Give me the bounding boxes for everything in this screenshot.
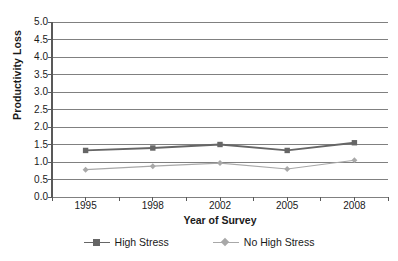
y-axis-tick-label: 5.0 — [22, 17, 48, 27]
data-point-square — [217, 142, 222, 147]
chart-legend: High StressNo High Stress — [0, 234, 398, 250]
legend-square-marker-icon — [84, 237, 110, 248]
y-axis-tick-label: 0.0 — [22, 192, 48, 202]
y-axis-tick-label: 2.5 — [22, 105, 48, 115]
y-axis-tick-label: 0.5 — [22, 175, 48, 185]
x-axis-tick-label: 2005 — [262, 200, 312, 212]
data-point-diamond — [217, 160, 223, 166]
y-axis-tick-label: 1.0 — [22, 157, 48, 167]
y-axis-tick-label: 4.5 — [22, 35, 48, 45]
x-axis-tick-label: 2002 — [195, 200, 245, 212]
x-axis-title: Year of Survey — [52, 214, 388, 227]
axis-lines — [48, 22, 52, 197]
plot-svg — [52, 22, 388, 197]
legend-item-2[interactable]: No High Stress — [213, 236, 315, 248]
legend-marker — [221, 238, 229, 246]
legend-diamond-marker-icon — [213, 237, 239, 248]
data-point-square — [352, 140, 357, 145]
gridlines — [52, 22, 388, 197]
y-axis-tick-label: 3.0 — [22, 87, 48, 97]
y-axis-tick-label: 2.0 — [22, 122, 48, 132]
data-point-diamond — [150, 163, 156, 169]
x-axis-tick-label: 1998 — [128, 200, 178, 212]
data-point-square — [285, 148, 290, 153]
x-axis-tick-label: 2008 — [329, 200, 379, 212]
y-axis-tick-label: 1.5 — [22, 140, 48, 150]
legend-label: No High Stress — [244, 236, 315, 248]
data-point-diamond — [284, 166, 290, 172]
data-point-diamond — [83, 167, 89, 173]
y-axis-tick-labels: 0.00.51.01.52.02.53.03.54.04.55.0 — [18, 22, 48, 197]
series-2 — [83, 157, 358, 172]
legend-label: High Stress — [115, 236, 169, 248]
y-axis-tick-label: 3.5 — [22, 70, 48, 80]
data-point-square — [150, 145, 155, 150]
plot-area — [52, 22, 388, 197]
productivity-loss-line-chart: Productivity Loss 0.00.51.01.52.02.53.03… — [0, 0, 398, 261]
legend-item-1[interactable]: High Stress — [84, 236, 169, 248]
x-axis-tick-label: 1995 — [61, 200, 111, 212]
x-axis-tick-labels: 19951998200220052008 — [52, 200, 388, 214]
y-axis-tick-label: 4.0 — [22, 52, 48, 62]
data-point-square — [83, 148, 88, 153]
series-1 — [83, 140, 357, 153]
legend-marker — [93, 239, 100, 246]
